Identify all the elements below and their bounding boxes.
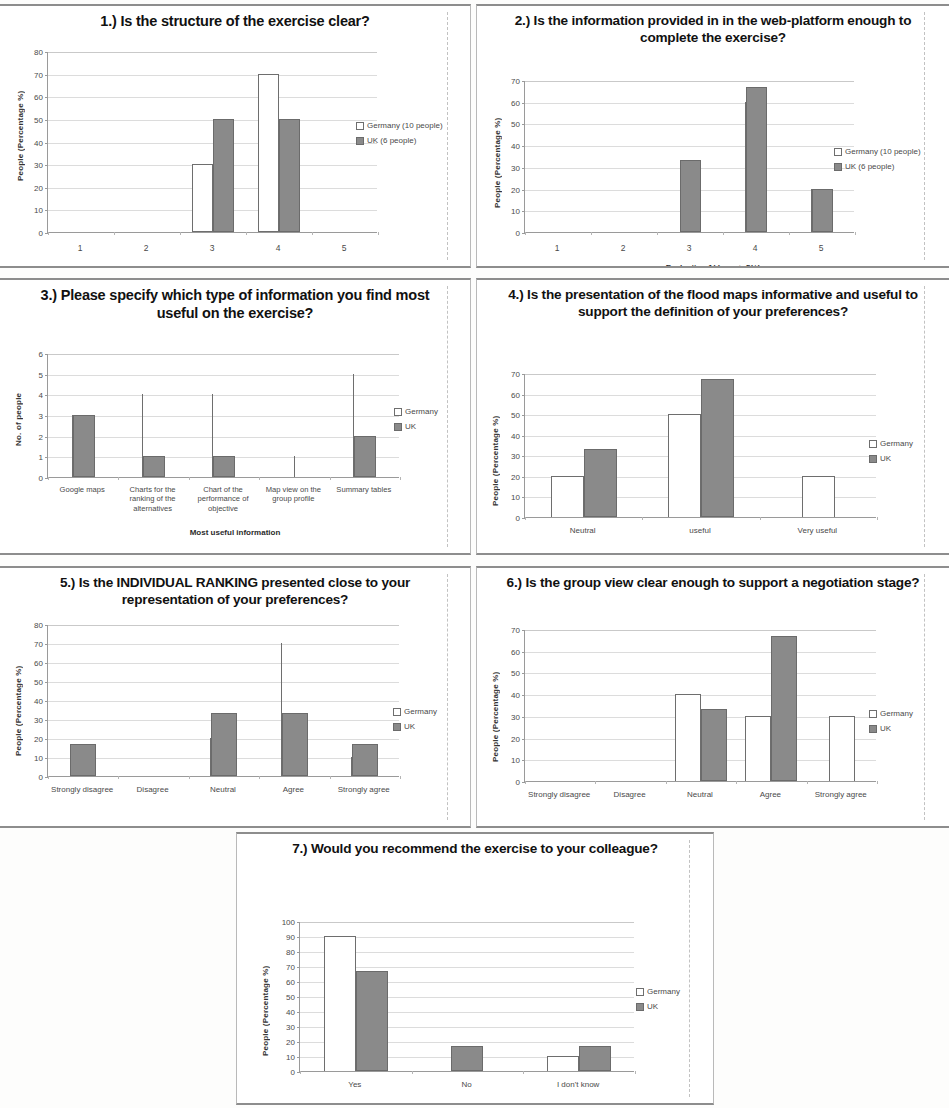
plot-area-q7 xyxy=(299,922,634,1072)
y-tick-label: 100 xyxy=(269,918,295,927)
x-tick-label: Summary tables xyxy=(330,485,398,494)
x-tick-mark xyxy=(666,781,667,784)
legend-swatch-uk-icon xyxy=(393,723,401,731)
chart-panel-q5: 5.) Is the INDIVIDUAL RANKING presented … xyxy=(0,566,471,828)
bar-uk xyxy=(451,1046,483,1072)
x-tick-mark xyxy=(400,776,401,779)
x-tick-label: Very useful xyxy=(771,526,863,536)
legend-swatch-uk-icon xyxy=(834,163,842,171)
x-tick-mark xyxy=(723,232,724,235)
y-tick-label: 80 xyxy=(17,621,43,630)
chart-panel-q7: 7.) Would you recommend the exercise to … xyxy=(236,832,714,1105)
legend-swatch-germany-icon xyxy=(869,710,877,718)
x-tick-mark xyxy=(400,477,401,480)
x-tick-label: 5 xyxy=(314,243,374,254)
x-tick-label: Map view on the group profile xyxy=(259,485,327,504)
y-tick-label: 10 xyxy=(17,206,43,215)
bar-group-container xyxy=(48,625,399,776)
legend-entry: UK (6 people) xyxy=(834,159,921,174)
bar-germany xyxy=(294,456,295,477)
y-tick-label: 30 xyxy=(494,163,520,172)
x-tick-label: 1 xyxy=(50,243,110,254)
y-tick-label: 70 xyxy=(494,626,520,635)
y-tick-label: 10 xyxy=(17,754,43,763)
bar-uk xyxy=(213,456,235,477)
plot-q2: People (Percentage %) 010203040506070123… xyxy=(477,6,949,266)
bar-category-group xyxy=(189,354,259,477)
legend-label: UK xyxy=(880,721,891,736)
x-tick-mark xyxy=(855,232,856,235)
x-tick-label: 3 xyxy=(182,243,242,254)
bar-category-group xyxy=(736,630,806,781)
y-tick-label: 30 xyxy=(17,161,43,170)
legend-entry: UK xyxy=(869,721,913,736)
x-tick-mark xyxy=(189,776,190,779)
bar-category-group xyxy=(523,922,635,1071)
plot-q4: People (Percentage %) 010203040506070Neu… xyxy=(477,280,949,553)
x-tick-label: Neutral xyxy=(666,790,734,800)
legend-entry: Germany (10 people) xyxy=(834,144,921,159)
bar-uk xyxy=(701,379,734,517)
bar-category-group xyxy=(412,922,524,1071)
legend-label: UK (6 people) xyxy=(367,133,416,148)
x-tick-label: 2 xyxy=(116,243,176,254)
y-tick-label: 3 xyxy=(17,412,43,421)
x-tick-mark xyxy=(877,781,878,784)
legend-label: Germany (10 people) xyxy=(845,144,921,159)
x-tick-mark xyxy=(525,232,526,235)
x-tick-mark xyxy=(378,232,379,235)
y-tick-label: 20 xyxy=(17,735,43,744)
x-tick-mark xyxy=(114,232,115,235)
x-tick-mark xyxy=(595,781,596,784)
bar-germany xyxy=(192,164,213,232)
bar-category-group xyxy=(259,354,329,477)
y-tick-label: 30 xyxy=(269,1023,295,1032)
bar-group-container xyxy=(525,81,854,232)
bar-category-group xyxy=(246,52,312,232)
x-tick-label: Google maps xyxy=(48,485,116,494)
bar-uk xyxy=(354,436,376,477)
legend-swatch-uk-icon xyxy=(869,725,877,733)
bar-uk xyxy=(579,1046,611,1072)
bar-category-group xyxy=(591,81,657,232)
bar-uk xyxy=(680,160,701,232)
y-tick-label: 90 xyxy=(269,933,295,942)
y-tick-label: 30 xyxy=(17,716,43,725)
bar-uk xyxy=(701,709,727,781)
bar-uk xyxy=(584,449,617,517)
plot-area-q1 xyxy=(47,52,377,233)
y-tick-label: 60 xyxy=(494,390,520,399)
x-tick-mark xyxy=(877,517,878,520)
x-tick-label: Chart of the performance of objective xyxy=(189,485,257,513)
legend-q4: GermanyUK xyxy=(869,436,913,466)
y-tick-label: 50 xyxy=(269,993,295,1002)
legend-entry: Germany xyxy=(869,436,913,451)
x-tick-mark xyxy=(48,232,49,235)
y-tick-label: 70 xyxy=(269,963,295,972)
legend-q3: GermanyUK xyxy=(394,404,438,434)
legend-swatch-germany-icon xyxy=(356,122,364,130)
bar-category-group xyxy=(114,52,180,232)
y-tick-label: 70 xyxy=(494,370,520,379)
bar-uk xyxy=(812,189,833,232)
bar-germany xyxy=(668,414,701,517)
y-tick-label: 10 xyxy=(494,493,520,502)
chart-panel-q3: 3.) Please specify which type of informa… xyxy=(0,278,471,555)
x-tick-label: I don't know xyxy=(534,1080,622,1090)
x-tick-mark xyxy=(642,517,643,520)
x-tick-label: Yes xyxy=(311,1080,399,1090)
y-tick-label: 60 xyxy=(17,93,43,102)
bar-category-group xyxy=(48,52,114,232)
y-tick-label: 80 xyxy=(269,948,295,957)
legend-entry: UK (6 people) xyxy=(356,133,443,148)
legend-entry: Germany (10 people) xyxy=(356,118,443,133)
y-tick-label: 70 xyxy=(494,77,520,86)
x-tick-mark xyxy=(330,477,331,480)
x-tick-label: Disagree xyxy=(596,790,664,800)
bar-germany xyxy=(675,694,701,781)
y-tick-label: 20 xyxy=(494,472,520,481)
legend-entry: UK xyxy=(869,451,913,466)
y-tick-label: 80 xyxy=(17,48,43,57)
x-tick-label: 4 xyxy=(248,243,308,254)
bar-category-group xyxy=(330,354,400,477)
